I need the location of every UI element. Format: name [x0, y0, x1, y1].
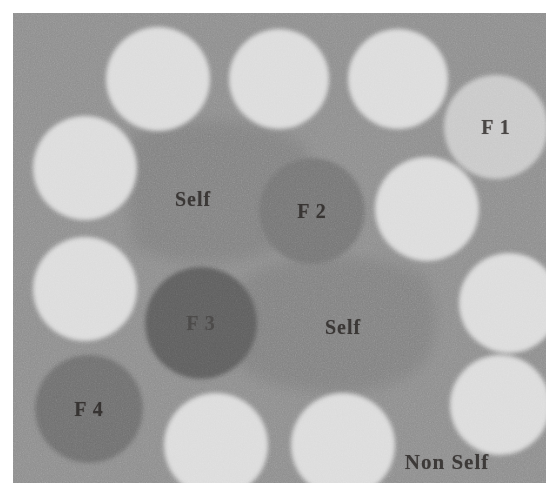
detector-circle [450, 355, 546, 455]
diagram-canvas: SelfSelfF 1F 2F 3F 4Non Self [13, 13, 546, 483]
diagram-svg [13, 13, 546, 483]
detector-circle-labeled [444, 75, 546, 179]
detector-circle-labeled [145, 267, 257, 379]
detector-circle-labeled [35, 355, 143, 463]
figure-root: SelfSelfF 1F 2F 3F 4Non Self [0, 0, 559, 500]
self-region [234, 256, 436, 393]
detector-circle [375, 157, 479, 261]
detector-circle-labeled [259, 158, 365, 264]
detector-circle [33, 116, 137, 220]
detector-circle [348, 29, 448, 129]
detector-circle [106, 27, 210, 131]
detector-circle [33, 237, 137, 341]
detector-circle [229, 29, 329, 129]
